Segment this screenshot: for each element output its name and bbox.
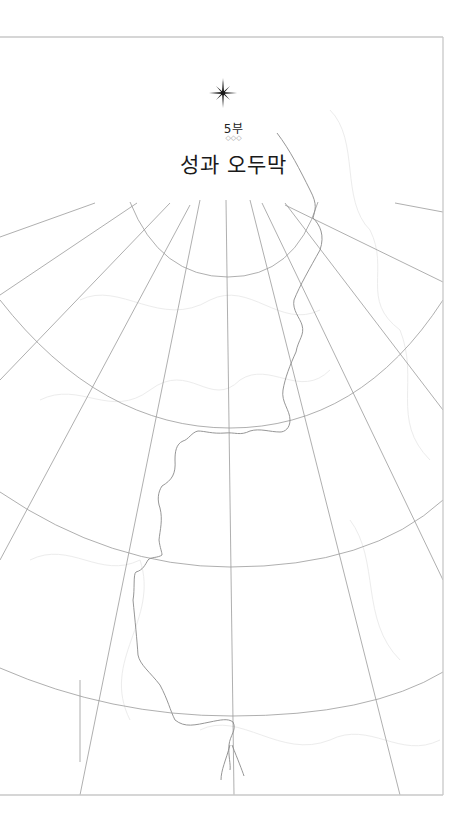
meridian-lines (0, 200, 443, 795)
river-fork-left (221, 745, 230, 780)
winding-border-line (133, 133, 322, 770)
latitude-arcs (0, 202, 443, 716)
ornament-divider: ◇◇◇ (0, 134, 467, 142)
compass-star-icon (208, 78, 238, 108)
book-part-title-page: 5부 ◇◇◇ 성과 오두막 (0, 0, 467, 836)
chapter-title: 성과 오두막 (0, 148, 467, 178)
